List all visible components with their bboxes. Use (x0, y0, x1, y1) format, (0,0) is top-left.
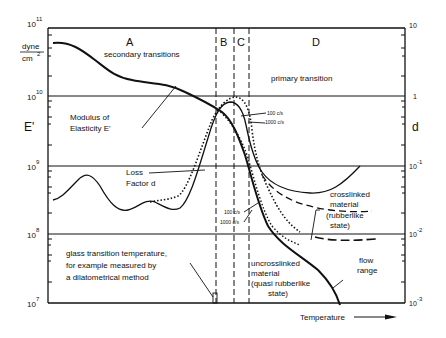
modulus-label-1: Modulus of (70, 113, 110, 122)
svg-text:-3: -3 (417, 296, 423, 302)
svg-text:Temperature: Temperature (300, 313, 345, 322)
loss-label-2: Factor d (126, 179, 155, 188)
svg-text:11: 11 (36, 16, 43, 22)
glass-transition-label-2: for example measured by (66, 261, 156, 270)
arrow-right-icon (385, 315, 397, 320)
svg-text:10: 10 (409, 231, 417, 238)
left-axis-labels: 1011 1010 109 108 107 dyne cm2 E' (20, 16, 44, 309)
svg-text:-1: -1 (417, 159, 423, 165)
flow-range-label-2: range (357, 266, 378, 275)
region-d-description: primary transition (271, 74, 332, 83)
svg-text:7: 7 (36, 296, 40, 302)
glass-transition-label-1: glass transition temperature, (66, 249, 167, 258)
svg-text:8: 8 (36, 227, 40, 233)
svg-text:10: 10 (36, 89, 43, 95)
modulus-label-2: Elasticity E' (70, 124, 111, 133)
region-b-label: B (220, 36, 227, 48)
region-a-description: secondary transitions (104, 50, 180, 59)
uncrosslinked-label-1: uncrosslinked (251, 259, 300, 268)
crosslinked-label-1: crosslinked (330, 190, 370, 199)
svg-text:10: 10 (409, 300, 417, 307)
left-unit-denominator: cm (22, 54, 33, 63)
svg-text:10: 10 (409, 22, 417, 29)
crosslinked-label-4: state) (330, 221, 350, 230)
viscoelastic-chart: 1011 1010 109 108 107 dyne cm2 E' 10 1 1… (0, 0, 446, 338)
left-unit-numerator: dyne (22, 42, 40, 51)
uncrosslinked-label-4: state) (268, 289, 288, 298)
right-axis-title: d (412, 120, 419, 134)
uncrosslinked-label-2: material (251, 269, 280, 278)
crosslinked-label-2: material (330, 200, 359, 209)
freq-100-bottom: 100 c/s (224, 209, 241, 215)
crosslinked-label-3: (rubberlike (326, 211, 364, 220)
left-axis-title: E' (24, 120, 34, 134)
x-axis-title: Temperature (300, 313, 397, 322)
freq-1000-top: 1000 c/s (265, 119, 284, 125)
svg-text:-2: -2 (417, 227, 423, 233)
svg-text:1: 1 (413, 93, 417, 100)
glass-transition-label-3: a dilatometrical method (66, 273, 149, 282)
flow-range-label-1: flow (359, 256, 373, 265)
right-axis-labels: 10 1 10-1 10-2 10-3 d (409, 22, 423, 307)
region-d-label: D (312, 36, 320, 48)
region-labels: A secondary transitions B C D primary tr… (104, 36, 332, 83)
loss-label-1: Loss (126, 168, 143, 177)
region-c-label: C (237, 36, 245, 48)
svg-text:10: 10 (409, 163, 417, 170)
freq-100-top: 100 c/s (267, 110, 284, 116)
region-a-label: A (126, 36, 134, 48)
freq-1000-bottom: 1000 c/s (220, 219, 239, 225)
svg-text:9: 9 (36, 159, 40, 165)
loss-factor-crosslinked-curve (315, 237, 376, 240)
uncrosslinked-label-3: (quasi rubberlike (251, 279, 311, 288)
